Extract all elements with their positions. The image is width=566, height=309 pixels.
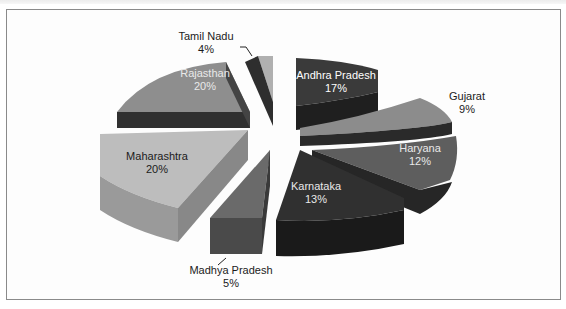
label-percent: 20% [112, 163, 202, 176]
pie-chart-graphic [0, 0, 566, 309]
label-percent: 5% [176, 277, 286, 290]
label-name: Gujarat [432, 90, 502, 103]
label-rajasthan: Rajasthan 20% [165, 67, 245, 93]
label-gujarat: Gujarat 9% [432, 90, 502, 116]
label-name: Andhra Pradesh [286, 69, 386, 82]
label-name: Maharashtra [112, 150, 202, 163]
label-name: Rajasthan [165, 67, 245, 80]
label-andhra-pradesh: Andhra Pradesh 17% [286, 69, 386, 95]
label-name: Madhya Pradesh [176, 264, 286, 277]
label-percent: 12% [385, 155, 455, 168]
label-name: Tamil Nadu [166, 30, 246, 43]
label-percent: 4% [166, 43, 246, 56]
label-maharashtra: Maharashtra 20% [112, 150, 202, 176]
label-haryana: Haryana 12% [385, 142, 455, 168]
label-percent: 13% [276, 193, 356, 206]
label-karnataka: Karnataka 13% [276, 180, 356, 206]
label-percent: 17% [286, 82, 386, 95]
label-percent: 20% [165, 80, 245, 93]
label-percent: 9% [432, 103, 502, 116]
label-madhya-pradesh: Madhya Pradesh 5% [176, 264, 286, 290]
label-tamil-nadu: Tamil Nadu 4% [166, 30, 246, 56]
label-name: Haryana [385, 142, 455, 155]
label-name: Karnataka [276, 180, 356, 193]
